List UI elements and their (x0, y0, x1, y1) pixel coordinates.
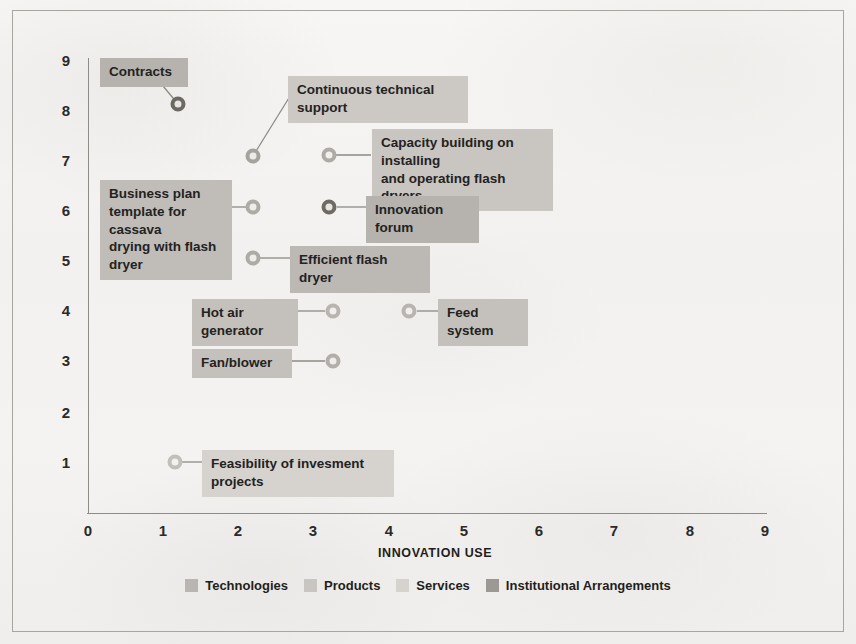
data-point-hot-air-generator[interactable] (326, 304, 341, 319)
x-tick-0: 0 (76, 523, 100, 538)
scatter-chart-figure: 9 8 7 6 5 4 3 2 1 0 1 2 3 4 5 6 7 8 9 IN… (0, 0, 856, 644)
legend-swatch-products-icon (304, 579, 317, 592)
data-point-fan-blower[interactable] (326, 354, 341, 369)
callout-feasibility: Feasibility of invesment projects (202, 450, 394, 497)
legend-label-services: Services (416, 578, 470, 593)
y-tick-7: 7 (46, 153, 70, 168)
x-tick-4: 4 (377, 523, 401, 538)
x-tick-6: 6 (527, 523, 551, 538)
callout-innovation-forum: Innovation forum (366, 196, 479, 243)
y-tick-2: 2 (46, 405, 70, 420)
y-tick-6: 6 (46, 203, 70, 218)
legend-swatch-institutional-arrangements-icon (486, 579, 499, 592)
y-tick-9: 9 (46, 53, 70, 68)
x-tick-3: 3 (301, 523, 325, 538)
data-point-feasibility[interactable] (168, 455, 183, 470)
data-point-efficient-flash-dryer[interactable] (246, 251, 261, 266)
y-tick-8: 8 (46, 103, 70, 118)
data-point-continuous-technical-support[interactable] (246, 149, 261, 164)
data-point-contracts[interactable] (171, 97, 186, 112)
x-tick-8: 8 (678, 523, 702, 538)
callout-hot-air-generator: Hot air generator (192, 299, 298, 346)
y-axis-line (88, 58, 89, 514)
leader-line-continuous-technical-support (253, 93, 292, 156)
chart-legend: Technologies Products Services Instituti… (0, 578, 856, 593)
callout-feed-system: Feed system (438, 299, 528, 346)
data-point-innovation-forum[interactable] (322, 200, 337, 215)
y-tick-1: 1 (46, 455, 70, 470)
y-tick-3: 3 (46, 353, 70, 368)
callout-business-plan-template: Business plan template for cassava dryin… (100, 180, 232, 280)
x-tick-7: 7 (602, 523, 626, 538)
callout-continuous-technical-support: Continuous technical support (288, 76, 468, 123)
y-tick-4: 4 (46, 303, 70, 318)
legend-label-technologies: Technologies (205, 578, 288, 593)
legend-entry-services[interactable]: Services (396, 578, 470, 593)
y-tick-5: 5 (46, 253, 70, 268)
legend-swatch-technologies-icon (185, 579, 198, 592)
data-point-capacity-building[interactable] (322, 148, 337, 163)
x-tick-9: 9 (753, 523, 777, 538)
legend-label-products: Products (324, 578, 380, 593)
x-axis-title: INNOVATION USE (378, 546, 492, 560)
legend-label-institutional-arrangements: Institutional Arrangements (506, 578, 671, 593)
legend-entry-products[interactable]: Products (304, 578, 380, 593)
x-tick-1: 1 (151, 523, 175, 538)
data-point-feed-system[interactable] (402, 304, 417, 319)
legend-swatch-services-icon (396, 579, 409, 592)
x-tick-5: 5 (452, 523, 476, 538)
callout-efficient-flash-dryer: Efficient flash dryer (290, 246, 430, 293)
callout-fan-blower: Fan/blower (192, 349, 292, 378)
legend-entry-institutional-arrangements[interactable]: Institutional Arrangements (486, 578, 671, 593)
x-tick-2: 2 (226, 523, 250, 538)
x-axis-line (87, 513, 767, 514)
data-point-business-plan-template[interactable] (246, 200, 261, 215)
callout-contracts: Contracts (100, 58, 188, 87)
legend-entry-technologies[interactable]: Technologies (185, 578, 288, 593)
